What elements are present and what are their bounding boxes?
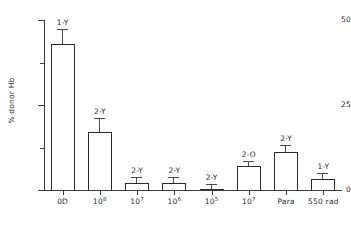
error-bar — [99, 119, 100, 132]
error-bar-cap — [317, 173, 328, 174]
error-bar-cap — [131, 177, 142, 178]
bar-group: 2-Y — [83, 20, 117, 190]
x-label-exponent: 8 — [103, 196, 107, 202]
error-bar — [322, 174, 323, 179]
bar — [125, 183, 149, 190]
error-bar — [136, 178, 137, 183]
error-bar — [248, 162, 249, 166]
x-label-exponent: 6 — [178, 196, 182, 202]
error-bar — [211, 185, 212, 189]
bar-group: 2-O — [232, 20, 266, 190]
error-bar-cap — [94, 118, 105, 119]
bar-annotation-label: 1-Y — [303, 162, 343, 171]
bar-group: 2-Y — [195, 20, 229, 190]
bar — [274, 152, 298, 190]
error-bar-cap — [280, 145, 291, 146]
bar-annotation-label: 2-Y — [154, 166, 194, 175]
x-tick — [174, 190, 175, 195]
y-axis-label: % donor Hb — [7, 66, 16, 136]
bar — [51, 44, 75, 190]
bar — [88, 132, 112, 190]
error-bar-cap — [57, 29, 68, 30]
x-tick-label: 550 rad — [299, 197, 347, 206]
error-bar-cap — [206, 184, 217, 185]
bar-chart-figure: % donor Hb 02550 1-Y2-Y2-Y2-Y2-Y2-O2-Y1-… — [0, 0, 351, 232]
bar-group: 2-Y — [157, 20, 191, 190]
bar-annotation-label: 2-Y — [266, 134, 306, 143]
bar-annotation-label: 2-O — [229, 150, 269, 159]
error-bar — [173, 178, 174, 183]
bar-group: 2-Y — [269, 20, 303, 190]
bar-annotation-label: 2-Y — [192, 173, 232, 182]
error-bar-cap — [168, 177, 179, 178]
bar-group: 2-Y — [120, 20, 154, 190]
y-tick-major — [38, 190, 44, 191]
x-tick — [249, 190, 250, 195]
x-label-exponent: 7 — [252, 196, 256, 202]
x-tick — [100, 190, 101, 195]
bar — [237, 166, 261, 190]
x-tick — [63, 190, 64, 195]
bar-group: 1-Y — [306, 20, 340, 190]
bar — [162, 183, 186, 190]
y-tick-minor — [40, 148, 44, 149]
error-bar — [62, 30, 63, 44]
bar-annotation-label: 2-Y — [117, 166, 157, 175]
x-tick — [286, 190, 287, 195]
y-tick-major — [38, 105, 44, 106]
x-tick — [137, 190, 138, 195]
x-axis-line — [44, 190, 342, 191]
error-bar-cap — [243, 161, 254, 162]
x-tick — [323, 190, 324, 195]
x-label-exponent: 7 — [140, 196, 144, 202]
bar-annotation-label: 2-Y — [80, 107, 120, 116]
x-label-exponent: 5 — [215, 196, 219, 202]
x-tick — [212, 190, 213, 195]
bar-group: 1-Y — [46, 20, 80, 190]
bar-annotation-label: 1-Y — [43, 18, 83, 27]
bar — [311, 179, 335, 190]
error-bar — [285, 146, 286, 152]
y-tick-minor — [40, 63, 44, 64]
